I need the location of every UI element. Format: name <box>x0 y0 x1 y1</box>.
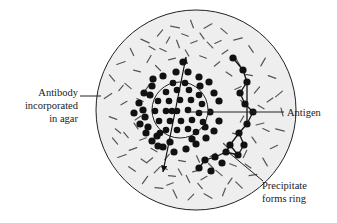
well-antigen-dot <box>163 108 170 115</box>
antigen-dot <box>144 123 151 130</box>
antigen-dot <box>148 82 155 89</box>
antigen-dot <box>182 145 189 152</box>
well-antigen-dot <box>182 80 189 87</box>
label-precipitate: Precipitateforms ring <box>262 180 307 204</box>
well-antigen-dot <box>152 108 159 115</box>
well-antigen-dot <box>155 98 162 105</box>
antigen-dot <box>215 97 222 104</box>
well-antigen-dot <box>163 127 170 134</box>
figure-canvas: Antibodyincorporatedin agarAntigenPrecip… <box>0 0 337 223</box>
label-antibody-line: in agar <box>49 113 78 124</box>
antibody-dash <box>155 188 163 189</box>
well-antigen-dot <box>178 118 185 125</box>
precipitate-dot <box>235 129 242 136</box>
precipitate-dot <box>243 120 250 127</box>
antigen-dot <box>205 78 212 85</box>
antigen-dot <box>195 73 202 80</box>
antigen-dot <box>139 106 146 113</box>
precipitate-dot <box>241 100 248 107</box>
well-antigen-dot <box>199 101 206 108</box>
antigen-dot <box>172 68 179 75</box>
antigen-dot <box>202 134 209 141</box>
well-antigen-dot <box>196 92 203 99</box>
precipitate-dot <box>229 54 236 61</box>
antigen-dot <box>184 68 191 75</box>
antigen-dot <box>130 109 137 116</box>
antigen-dot <box>149 75 156 82</box>
label-precipitate-line: Precipitate <box>262 180 307 191</box>
antigen-dot <box>154 142 161 149</box>
antigen-dot <box>146 91 153 98</box>
antigen-dot <box>170 148 177 155</box>
well-antigen-dot <box>196 110 203 117</box>
antigen-dot <box>210 89 217 96</box>
well-antigen-dot <box>157 130 164 137</box>
well-antigen-dot <box>156 118 163 125</box>
label-antibody-line: Antibody <box>38 87 78 98</box>
well-antigen-dot <box>188 97 195 104</box>
precipitate-dot <box>201 156 208 163</box>
precipitate-dot <box>240 141 247 148</box>
antigen-dot <box>159 72 166 79</box>
well-antigen-dot <box>185 126 192 133</box>
antibody-dash <box>169 176 176 177</box>
precipitate-dot <box>234 151 241 158</box>
well-antigen-dot <box>166 98 173 105</box>
antigen-dot <box>136 120 143 127</box>
label-precipitate-line: forms ring <box>262 193 307 204</box>
antigen-dot <box>210 127 217 134</box>
precipitate-dot <box>226 141 233 148</box>
well-antigen-dot <box>163 89 170 96</box>
precipitate-dot <box>195 164 202 171</box>
label-antibody-line: incorporated <box>25 100 79 111</box>
precipitate-dot <box>239 66 246 73</box>
precipitate-dot <box>243 78 250 85</box>
precipitate-dot <box>211 153 218 160</box>
well-antigen-dot <box>186 87 193 94</box>
label-antibody: Antibodyincorporatedin agar <box>25 87 79 124</box>
immunodiffusion-diagram: Antibodyincorporatedin agarAntigenPrecip… <box>0 0 337 223</box>
antigen-dot <box>215 117 222 124</box>
antigen-dot <box>141 113 148 120</box>
well-antigen-dot <box>189 117 196 124</box>
well-antigen-dot <box>200 119 207 126</box>
well-antigen-dot <box>193 129 200 136</box>
precipitate-dot <box>236 89 243 96</box>
well-antigen-dot <box>170 80 177 87</box>
antigen-dot <box>135 99 142 106</box>
precipitate-dot <box>207 167 214 174</box>
label-antigen-line: Antigen <box>287 107 322 118</box>
precipitate-dot <box>218 159 225 166</box>
label-antigen: Antigen <box>287 107 322 118</box>
well-antigen-dot <box>174 127 181 134</box>
